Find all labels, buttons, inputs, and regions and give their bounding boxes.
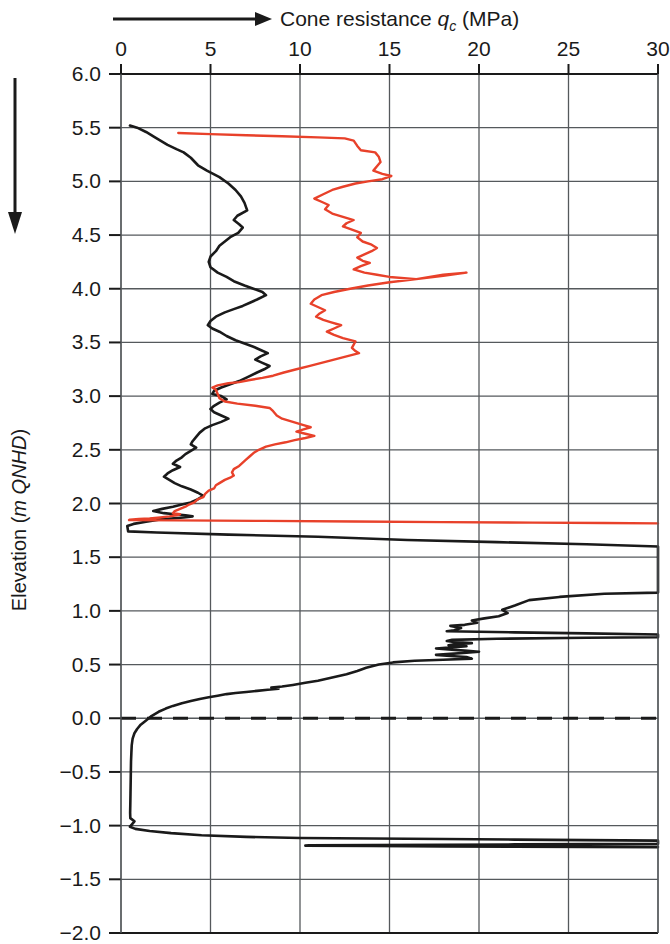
- y-tick-label: 4.5: [72, 223, 101, 246]
- y-tick-label: −1.5: [60, 867, 101, 890]
- x-tick-label: 5: [205, 37, 217, 60]
- x-axis-title-units: (MPa): [456, 7, 519, 30]
- y-tick-label: 3.5: [72, 330, 101, 353]
- chart-canvas: Cone resistance qc (MPa) Elevation (m QN…: [0, 0, 670, 944]
- y-tick-label: −1.0: [60, 814, 101, 837]
- x-tick-label: 30: [646, 37, 669, 60]
- data-series-layer: [127, 126, 658, 848]
- x-tick-label: 25: [557, 37, 580, 60]
- x-tick-label: 0: [115, 37, 127, 60]
- x-axis-title-main: Cone resistance: [280, 7, 438, 30]
- cone-resistance-chart-figure: Cone resistance qc (MPa) Elevation (m QN…: [0, 0, 670, 944]
- y-tick-label: 2.0: [72, 492, 101, 515]
- y-tick-label: 2.5: [72, 438, 101, 461]
- y-tick-label: 4.0: [72, 277, 101, 300]
- y-tick-label: 6.0: [72, 62, 101, 85]
- y-tick-label: −0.5: [60, 760, 101, 783]
- y-axis-title: Elevation (m QNHD): [8, 429, 30, 611]
- y-tick-label: −2.0: [60, 921, 101, 944]
- series-line: [127, 126, 658, 848]
- y-axis-arrow-icon: [8, 78, 22, 234]
- x-axis-title: Cone resistance qc (MPa): [280, 7, 519, 34]
- x-axis-title-symbol: q: [438, 7, 450, 30]
- y-axis-title-main: Elevation (: [8, 516, 30, 611]
- y-tick-label: 1.5: [72, 545, 101, 568]
- y-axis-title-italic: m QNHD: [8, 436, 30, 517]
- grid-lines: [121, 74, 658, 933]
- axis-tick-labels: 0510152025306.05.55.04.54.03.53.02.52.01…: [60, 37, 670, 944]
- x-axis-arrow-icon: [113, 12, 272, 26]
- y-tick-label: 3.0: [72, 384, 101, 407]
- y-tick-label: 1.0: [72, 599, 101, 622]
- y-axis-title-close: ): [8, 429, 30, 436]
- axis-ticks: [109, 64, 658, 933]
- y-tick-label: 5.5: [72, 116, 101, 139]
- y-tick-label: 0.5: [72, 653, 101, 676]
- series-line: [129, 133, 658, 523]
- x-tick-label: 20: [467, 37, 490, 60]
- y-tick-label: 0.0: [72, 706, 101, 729]
- x-tick-label: 10: [288, 37, 311, 60]
- x-tick-label: 15: [378, 37, 401, 60]
- y-tick-label: 5.0: [72, 169, 101, 192]
- x-axis-title-symbol-sub: c: [449, 18, 456, 34]
